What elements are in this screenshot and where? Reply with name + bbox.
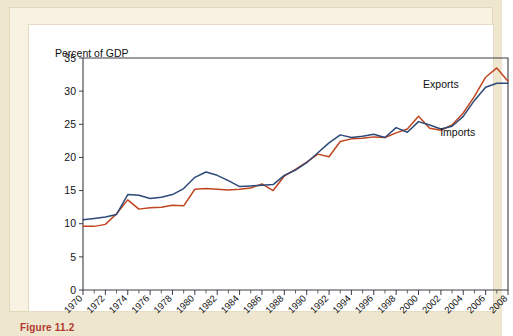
svg-text:30: 30 [64, 85, 76, 97]
svg-text:1992: 1992 [308, 293, 331, 316]
svg-text:20: 20 [64, 151, 76, 163]
svg-text:15: 15 [64, 184, 76, 196]
svg-text:1984: 1984 [218, 293, 241, 316]
svg-text:25: 25 [64, 118, 76, 130]
svg-text:1976: 1976 [129, 293, 152, 316]
series-line-exports [83, 68, 508, 226]
svg-text:1998: 1998 [375, 293, 398, 316]
svg-text:1974: 1974 [106, 293, 129, 316]
svg-text:1972: 1972 [84, 293, 107, 316]
svg-text:1978: 1978 [151, 293, 174, 316]
figure-caption: Figure 11.2 [20, 322, 74, 333]
svg-text:1986: 1986 [241, 293, 264, 316]
svg-text:1996: 1996 [352, 293, 375, 316]
chart-area: Percent of GDP 05101520253035 1970197219… [47, 41, 513, 329]
svg-text:2004: 2004 [442, 293, 465, 316]
svg-text:1982: 1982 [196, 293, 219, 316]
y-axis-ticks [79, 58, 83, 290]
svg-text:1970: 1970 [62, 293, 85, 316]
figure-inner-border: Percent of GDP 05101520253035 1970197219… [9, 7, 493, 312]
svg-text:10: 10 [64, 217, 76, 229]
svg-text:1980: 1980 [174, 293, 197, 316]
figure-panel: Percent of GDP 05101520253035 1970197219… [28, 24, 494, 312]
data-series-lines [83, 68, 508, 226]
svg-text:2000: 2000 [397, 293, 420, 316]
line-chart-svg: 05101520253035 1970197219741976197819801… [47, 41, 513, 329]
annotation-exports: Exports [423, 78, 459, 90]
svg-text:2006: 2006 [464, 293, 487, 316]
series-line-imports [83, 83, 508, 220]
svg-text:35: 35 [64, 52, 76, 64]
svg-text:2008: 2008 [487, 293, 510, 316]
svg-text:5: 5 [70, 251, 76, 263]
svg-text:1994: 1994 [330, 293, 353, 316]
svg-text:1988: 1988 [263, 293, 286, 316]
svg-text:2002: 2002 [420, 293, 443, 316]
plot-frame [83, 58, 508, 290]
annotation-imports: Imports [440, 126, 475, 138]
x-axis-ticks [83, 290, 508, 295]
svg-text:1990: 1990 [285, 293, 308, 316]
y-axis-tick-labels: 05101520253035 [64, 52, 76, 296]
x-axis-tick-labels: 1970197219741976197819801982198419861988… [62, 293, 510, 316]
